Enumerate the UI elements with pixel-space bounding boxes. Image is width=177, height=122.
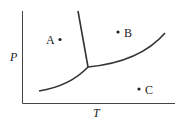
point-c-dot	[137, 87, 140, 90]
point-a-dot	[58, 38, 61, 41]
solid-liquid-boundary	[78, 11, 88, 67]
solid-gas-boundary	[39, 67, 88, 91]
point-c-label: C	[145, 83, 153, 97]
y-axis-label: P	[9, 50, 18, 64]
point-b-dot	[116, 30, 119, 33]
x-axis-label: T	[93, 106, 101, 120]
phase-diagram: A B C P T	[0, 0, 177, 122]
point-b-label: B	[124, 26, 132, 40]
point-a-label: A	[46, 33, 55, 47]
